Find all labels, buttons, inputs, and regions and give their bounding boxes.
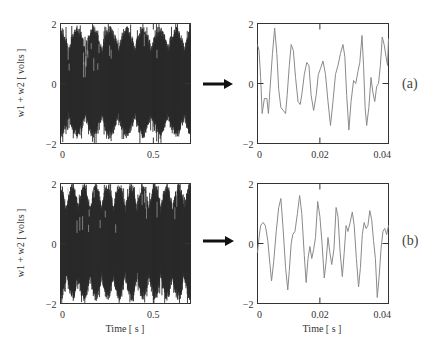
figure: −20200.5 w1 + w2 [ volts ] −20200.020.04… — [0, 0, 435, 355]
panel-label-b: (b) — [402, 233, 419, 249]
y-tick-label: −2 — [243, 299, 254, 310]
y-tick-label: 2 — [52, 19, 57, 30]
plot-a-full: −20200.5 — [46, 19, 191, 160]
x-tick-label: 0.04 — [374, 309, 392, 320]
x-tick-label: 0 — [257, 309, 262, 320]
x-tick-label: 0.5 — [147, 309, 160, 320]
y-tick-label: 0 — [249, 239, 254, 250]
right-arrow-icon — [203, 79, 233, 89]
plot-b-zoom: −20200.020.04 — [243, 179, 391, 320]
plot-b-full: −20200.5 — [46, 179, 191, 320]
x-tick-label: 0.02 — [311, 149, 329, 160]
y-tick-label: 2 — [52, 179, 57, 190]
plot-frame — [258, 184, 389, 304]
y-tick-label: 0 — [249, 79, 254, 90]
x-tick-label: 0 — [60, 149, 65, 160]
y-tick-label: 0 — [52, 239, 57, 250]
plot-a-zoom: −20200.020.04 — [243, 19, 391, 160]
panel-label-a: (a) — [402, 76, 418, 92]
x-tick-label: 0.04 — [374, 149, 392, 160]
y-tick-label: 0 — [52, 79, 57, 90]
x-axis-label: Time [ s ] — [106, 323, 145, 334]
x-tick-label: 0 — [60, 309, 65, 320]
x-tick-label: 0.5 — [147, 149, 160, 160]
plot-frame — [258, 24, 389, 144]
y-tick-label: −2 — [243, 139, 254, 150]
y-tick-label: −2 — [46, 139, 57, 150]
x-tick-label: 0.02 — [311, 309, 329, 320]
y-tick-label: −2 — [46, 299, 57, 310]
y-tick-label: 2 — [249, 179, 254, 190]
y-tick-label: 2 — [249, 19, 254, 30]
right-arrow-icon — [203, 236, 234, 246]
y-axis-label: w1 + w2 [ volts ] — [15, 209, 26, 278]
x-tick-label: 0 — [257, 149, 262, 160]
x-axis-label: Time [ s ] — [303, 323, 342, 334]
y-axis-label: w1 + w2 [ volts ] — [15, 49, 26, 118]
